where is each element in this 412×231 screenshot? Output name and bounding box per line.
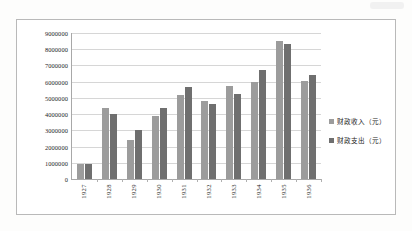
scan-artifact-mark bbox=[370, 2, 404, 9]
bar-expenditure bbox=[110, 114, 117, 179]
y-axis-tick-label: 7000000 bbox=[45, 62, 68, 69]
bar-group bbox=[172, 33, 197, 179]
bar-expenditure bbox=[135, 130, 142, 179]
bar-group bbox=[197, 33, 222, 179]
bar-group bbox=[147, 33, 172, 179]
y-axis-tick-label: 4000000 bbox=[45, 111, 68, 118]
legend-label-income: 财政收入（元） bbox=[337, 116, 386, 126]
bars-layer bbox=[72, 33, 321, 179]
legend-item-income: 财政收入（元） bbox=[329, 116, 386, 126]
bar-income bbox=[276, 41, 283, 179]
legend-label-expenditure: 财政支出（元） bbox=[337, 135, 386, 145]
x-axis-tick-label: 1933 bbox=[230, 184, 237, 199]
x-axis-tick bbox=[197, 179, 198, 182]
bar-group bbox=[97, 33, 122, 179]
bar-income bbox=[102, 108, 109, 179]
y-axis-tick-label: 1000000 bbox=[45, 159, 68, 166]
bar-group bbox=[122, 33, 147, 179]
x-axis-tick-label: 1934 bbox=[255, 184, 262, 199]
bar-group bbox=[72, 33, 97, 179]
bar-group bbox=[246, 33, 271, 179]
y-axis-tick-label: 5000000 bbox=[45, 94, 68, 101]
y-axis-tick-label: 8000000 bbox=[45, 46, 68, 53]
y-axis-tick-label: 9000000 bbox=[45, 30, 68, 37]
legend-swatch-income-icon bbox=[329, 119, 334, 124]
bar-income bbox=[77, 164, 84, 179]
bar-expenditure bbox=[185, 87, 192, 179]
bar-income bbox=[201, 101, 208, 179]
bar-income bbox=[152, 116, 159, 179]
x-axis-tick bbox=[246, 179, 247, 182]
x-axis-tick-label: 1935 bbox=[280, 184, 287, 199]
x-axis-tick-label: 1931 bbox=[180, 184, 187, 199]
legend-swatch-expenditure-icon bbox=[329, 138, 334, 143]
x-axis-tick bbox=[296, 179, 297, 182]
x-axis-tick bbox=[147, 179, 148, 182]
x-axis-tick-label: 1936 bbox=[305, 184, 312, 199]
x-axis-tick bbox=[321, 179, 322, 182]
plot-area: 9000000800000070000006000000500000040000… bbox=[71, 33, 321, 180]
legend-item-expenditure: 财政支出（元） bbox=[329, 135, 386, 145]
bar-expenditure bbox=[85, 164, 92, 179]
y-axis-tick-label: 6000000 bbox=[45, 78, 68, 85]
bar-expenditure bbox=[309, 75, 316, 179]
bar-group bbox=[296, 33, 321, 179]
bar-group bbox=[271, 33, 296, 179]
x-axis-tick bbox=[97, 179, 98, 182]
x-axis-tick bbox=[221, 179, 222, 182]
bar-expenditure bbox=[284, 44, 291, 179]
bar-income bbox=[301, 81, 308, 179]
bar-expenditure bbox=[209, 104, 216, 179]
scanned-page: 9000000800000070000006000000500000040000… bbox=[0, 0, 412, 231]
bar-income bbox=[226, 86, 233, 179]
x-axis-tick-label: 1929 bbox=[130, 184, 137, 199]
x-axis-tick bbox=[122, 179, 123, 182]
bar-income bbox=[177, 95, 184, 179]
y-axis-tick-label: 0 bbox=[65, 176, 68, 183]
bar-income bbox=[251, 82, 258, 179]
bar-expenditure bbox=[160, 108, 167, 179]
x-axis-tick-label: 1930 bbox=[155, 184, 162, 199]
x-axis-tick-label: 1928 bbox=[105, 184, 112, 199]
x-axis-tick-label: 1932 bbox=[205, 184, 212, 199]
x-axis-tick bbox=[271, 179, 272, 182]
bar-expenditure bbox=[234, 94, 241, 179]
bar-group bbox=[221, 33, 246, 179]
bar-income bbox=[127, 140, 134, 179]
chart-frame: 9000000800000070000006000000500000040000… bbox=[16, 19, 396, 215]
x-axis-tick-label: 1927 bbox=[80, 184, 87, 199]
y-axis-tick-label: 2000000 bbox=[45, 143, 68, 150]
x-axis-tick bbox=[172, 179, 173, 182]
chart-legend: 财政收入（元） 财政支出（元） bbox=[329, 116, 386, 154]
bar-expenditure bbox=[259, 70, 266, 179]
y-axis-tick-label: 3000000 bbox=[45, 127, 68, 134]
